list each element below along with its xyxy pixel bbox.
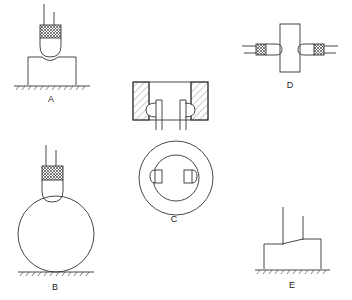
figure-c-plan xyxy=(139,141,213,215)
figure-b-label: B xyxy=(52,282,58,292)
probe-cap-icon xyxy=(42,166,63,180)
figure-d xyxy=(242,24,338,72)
figure-e-label: E xyxy=(289,280,295,290)
figure-c-section xyxy=(133,82,208,130)
figure-a xyxy=(14,4,90,90)
figure-b xyxy=(18,145,94,276)
figure-d-label: D xyxy=(287,80,294,90)
diagram-canvas xyxy=(0,0,352,300)
figure-e xyxy=(255,207,330,274)
probe-cap-icon xyxy=(40,25,61,38)
figure-c-label: C xyxy=(171,214,178,224)
figure-a-label: A xyxy=(48,94,54,104)
